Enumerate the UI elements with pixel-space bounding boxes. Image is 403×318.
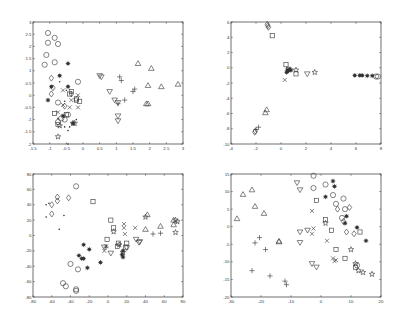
x-tick-label: 0 (107, 299, 110, 304)
y-tick-label: -0.5 (24, 105, 32, 110)
y-tick-label: 40 (27, 202, 32, 207)
dot-marker-icon (48, 202, 50, 204)
dot-marker-icon (45, 204, 47, 206)
asterisk-marker-icon (85, 265, 90, 270)
y-tick-label: 0 (29, 93, 32, 98)
asterisk-marker-icon (46, 98, 51, 103)
x-tick-label: 2.5 (163, 146, 170, 151)
x-tick-label: -30 (228, 299, 235, 304)
dot-marker-icon (64, 101, 66, 103)
y-tick-label: -60 (25, 279, 32, 284)
asterisk-marker-icon (323, 194, 328, 199)
asterisk-marker-icon (360, 73, 365, 78)
asterisk-marker-icon (365, 73, 370, 78)
y-tick-label: 0 (227, 224, 230, 229)
x-tick-label: 6 (355, 146, 358, 151)
dot-marker-icon (64, 126, 66, 128)
y-tick-label: 15 (225, 172, 230, 177)
scatter-figure: -1.5-1-0.500.511.522.53-2-1.5-1-0.500.51… (0, 0, 403, 318)
dot-marker-icon (57, 118, 59, 120)
x-tick-label: 0.5 (97, 146, 104, 151)
x-tick-label: 20 (379, 299, 384, 304)
x-tick-label: -4 (229, 146, 233, 151)
asterisk-marker-icon (331, 179, 336, 184)
x-tick-label: 10 (349, 299, 354, 304)
dot-marker-icon (66, 90, 68, 92)
y-tick-label: 0 (227, 65, 230, 70)
asterisk-marker-icon (364, 238, 369, 243)
y-tick-label: -20 (223, 295, 230, 300)
y-tick-label: -5 (226, 242, 230, 247)
y-tick-label: 0 (29, 233, 32, 238)
dot-marker-icon (67, 130, 69, 132)
x-tick-label: -20 (86, 299, 93, 304)
x-tick-label: 1.5 (130, 146, 137, 151)
asterisk-marker-icon (370, 73, 375, 78)
x-tick-label: -2 (254, 146, 258, 151)
asterisk-marker-icon (332, 184, 337, 189)
y-tick-label: 2.5 (26, 32, 33, 37)
y-tick-label: 4 (227, 35, 230, 40)
x-tick-label: 20 (124, 299, 129, 304)
y-tick-label: -80 (25, 295, 32, 300)
y-tick-label: 60 (27, 187, 32, 192)
x-tick-label: 8 (380, 146, 383, 151)
asterisk-marker-icon (344, 214, 349, 219)
x-tick-label: 40 (143, 299, 148, 304)
x-tick-label: 60 (162, 299, 167, 304)
asterisk-marker-icon (66, 61, 71, 66)
y-tick-label: -2 (28, 142, 32, 147)
x-tick-label: -1 (48, 146, 52, 151)
dot-marker-icon (76, 119, 78, 121)
x-tick-label: -80 (30, 299, 37, 304)
y-tick-label: -1 (28, 117, 32, 122)
asterisk-marker-icon (355, 225, 360, 230)
x-tick-label: 2 (148, 146, 151, 151)
x-tick-label: -20 (258, 299, 265, 304)
y-tick-label: -10 (223, 142, 230, 147)
asterisk-marker-icon (343, 221, 348, 226)
x-tick-label: 4 (330, 146, 333, 151)
asterisk-marker-icon (121, 255, 126, 260)
x-tick-label: -40 (67, 299, 74, 304)
y-tick-label: -10 (223, 259, 230, 264)
y-tick-label: 5 (227, 207, 230, 212)
y-tick-label: 2 (29, 44, 32, 49)
x-tick-label: 0 (320, 299, 323, 304)
axes-box (231, 174, 381, 297)
dot-marker-icon (58, 229, 60, 231)
asterisk-marker-icon (284, 70, 289, 75)
y-tick-label: -40 (25, 264, 32, 269)
x-tick-label: -60 (49, 299, 56, 304)
y-tick-label: -4 (226, 96, 230, 101)
x-tick-label: 1 (115, 146, 118, 151)
y-tick-label: 20 (27, 218, 32, 223)
asterisk-marker-icon (61, 114, 66, 119)
y-tick-label: -6 (226, 111, 230, 116)
asterisk-marker-icon (87, 247, 92, 252)
asterisk-marker-icon (81, 242, 86, 247)
y-tick-label: 6 (227, 20, 230, 25)
x-tick-label: 2 (305, 146, 308, 151)
y-tick-label: -8 (226, 126, 230, 131)
y-tick-label: -15 (223, 277, 230, 282)
scatter-panel-top-right: -4-202468-10-8-6-4-20246 (223, 20, 383, 151)
dot-marker-icon (67, 143, 69, 145)
y-tick-label: 2 (227, 50, 230, 55)
y-tick-label: 1 (29, 68, 32, 73)
y-tick-label: 0.5 (26, 81, 33, 86)
y-tick-label: 1.5 (26, 56, 33, 61)
y-tick-label: -20 (25, 248, 32, 253)
y-tick-label: 80 (27, 172, 32, 177)
dot-marker-icon (63, 215, 65, 217)
x-tick-label: -1.5 (29, 146, 37, 151)
scatter-panel-bottom-left: -80-60-40-20020406080-80-60-40-200204060… (25, 172, 186, 304)
dot-marker-icon (45, 216, 47, 218)
x-tick-label: -10 (288, 299, 295, 304)
y-tick-label: -2 (226, 81, 230, 86)
asterisk-marker-icon (57, 73, 62, 78)
axes-box (231, 22, 381, 144)
dot-marker-icon (59, 81, 61, 83)
x-tick-label: 3 (182, 146, 185, 151)
x-tick-label: 0 (280, 146, 283, 151)
